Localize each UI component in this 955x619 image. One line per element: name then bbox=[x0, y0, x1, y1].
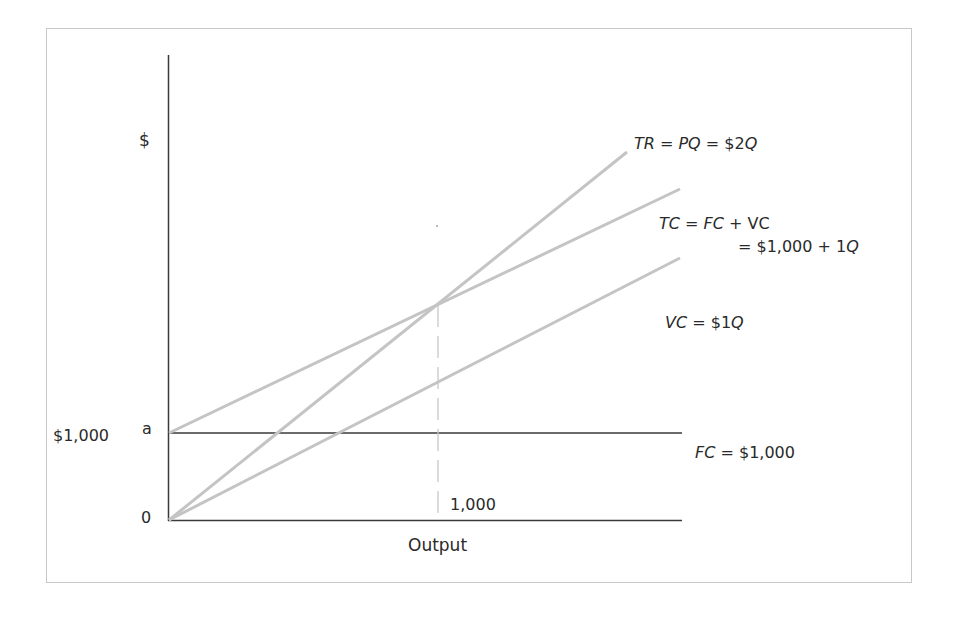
tr-pq: PQ bbox=[678, 134, 700, 153]
fc-symbol: FC bbox=[695, 443, 715, 462]
tc-rest: + VC bbox=[724, 214, 770, 233]
tc-fc: FC bbox=[704, 214, 724, 233]
fc-y-tick-label: $1,000 bbox=[53, 428, 109, 444]
vc-line bbox=[169, 258, 680, 520]
tr-eq2: = $2 bbox=[701, 134, 745, 153]
tc-line bbox=[169, 189, 680, 433]
tc-eq1: = bbox=[680, 214, 704, 233]
tr-symbol: TR bbox=[634, 134, 655, 153]
vc-symbol: VC bbox=[665, 313, 687, 332]
vc-q: Q bbox=[731, 313, 744, 332]
vc-label: VC = $1Q bbox=[665, 315, 744, 331]
tc-symbol: TC bbox=[659, 214, 680, 233]
tr-line bbox=[169, 152, 627, 520]
tc-line2-text: = $1,000 + 1 bbox=[738, 237, 846, 256]
fc-rest: = $1,000 bbox=[715, 443, 795, 462]
vc-rest: = $1 bbox=[687, 313, 731, 332]
fc-marker-a: a bbox=[142, 421, 152, 437]
tr-label: TR = PQ = $2Q bbox=[634, 136, 757, 152]
tc-label-line2: = $1,000 + 1Q bbox=[738, 239, 859, 255]
tr-q: Q bbox=[745, 134, 758, 153]
tc-label-line1: TC = FC + VC bbox=[659, 216, 770, 232]
tc-q: Q bbox=[846, 237, 859, 256]
fc-label: FC = $1,000 bbox=[695, 445, 795, 461]
x-axis-label: Output bbox=[408, 537, 467, 554]
break-even-point-mark bbox=[436, 225, 438, 227]
origin-label: 0 bbox=[141, 510, 151, 526]
y-axis-label: $ bbox=[139, 132, 150, 149]
x-tick-label-1000: 1,000 bbox=[450, 497, 496, 513]
tr-eq1: = bbox=[655, 134, 679, 153]
